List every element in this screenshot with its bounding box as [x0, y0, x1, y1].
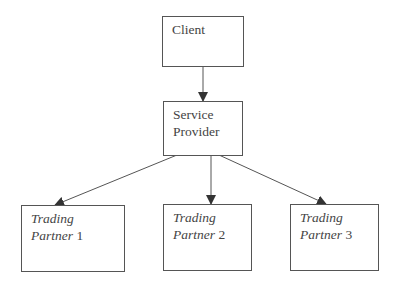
arrow-provider-to-partner1	[55, 155, 177, 205]
service-provider-node: Service Provider	[163, 101, 243, 156]
trading-partner-1-node: Trading Partner 1	[21, 205, 125, 272]
service-provider-line2: Provider	[173, 123, 220, 140]
trading-partner-2-number: 2	[215, 227, 225, 242]
trading-partner-2-word: Partner	[173, 227, 215, 242]
trading-partner-1-number: 1	[73, 228, 83, 243]
trading-partner-3-node: Trading Partner 3	[290, 204, 379, 271]
trading-partner-2-line1: Trading	[173, 209, 225, 226]
client-label: Client	[172, 21, 205, 38]
trading-partner-2-label: Trading Partner 2	[173, 209, 225, 243]
trading-partner-3-line1: Trading	[300, 209, 352, 226]
arrow-provider-to-partner3	[219, 155, 326, 204]
trading-partner-3-label: Trading Partner 3	[300, 209, 352, 243]
service-provider-line1: Service	[173, 106, 220, 123]
trading-partner-1-label: Trading Partner 1	[31, 210, 83, 244]
client-node: Client	[162, 16, 244, 67]
service-provider-label: Service Provider	[173, 106, 220, 140]
trading-partner-2-node: Trading Partner 2	[163, 204, 252, 271]
trading-partner-1-word: Partner	[31, 228, 73, 243]
trading-partner-3-number: 3	[342, 227, 352, 242]
trading-partner-3-word: Partner	[300, 227, 342, 242]
trading-partner-1-line1: Trading	[31, 210, 83, 227]
